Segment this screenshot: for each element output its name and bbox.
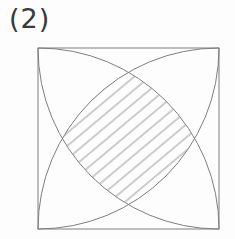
hatched-lens-region (62, 72, 195, 205)
geometry-figure (0, 0, 235, 239)
worksheet-page: (2) (0, 0, 235, 239)
